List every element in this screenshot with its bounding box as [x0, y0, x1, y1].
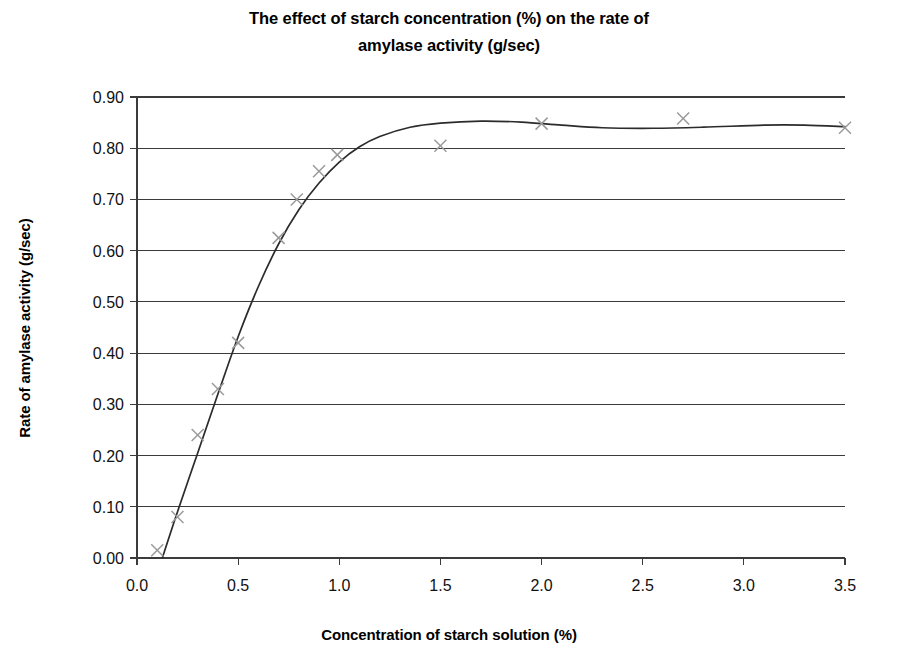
chart-container: The effect of starch concentration (%) o…: [0, 0, 898, 670]
y-tick-label: 0.40: [93, 345, 124, 362]
x-tick-label: 0.5: [227, 577, 249, 594]
x-axis-title: Concentration of starch solution (%): [321, 626, 577, 643]
y-tick-label: 0.30: [93, 396, 124, 413]
x-tick-label: 2.0: [530, 577, 552, 594]
x-tick-label: 2.5: [632, 577, 654, 594]
x-tick-label: 1.5: [429, 577, 451, 594]
y-tick-label: 0.60: [93, 243, 124, 260]
y-tick-label: 0.00: [93, 550, 124, 567]
chart-canvas: The effect of starch concentration (%) o…: [0, 0, 898, 670]
chart-background: [0, 0, 898, 670]
y-tick-label: 0.50: [93, 294, 124, 311]
y-axis-title: Rate of amylase activity (g/sec): [16, 218, 33, 438]
y-tick-label: 0.80: [93, 140, 124, 157]
y-tick-label: 0.10: [93, 499, 124, 516]
y-tick-label: 0.20: [93, 448, 124, 465]
x-tick-label: 3.5: [834, 577, 856, 594]
y-tick-label: 0.70: [93, 191, 124, 208]
x-tick-label: 3.0: [733, 577, 755, 594]
chart-title-line-1: The effect of starch concentration (%) o…: [249, 9, 650, 27]
y-tick-label: 0.90: [93, 89, 124, 106]
chart-title-line-2: amylase activity (g/sec): [358, 36, 540, 54]
x-tick-label: 1.0: [328, 577, 350, 594]
x-tick-label: 0.0: [126, 577, 148, 594]
